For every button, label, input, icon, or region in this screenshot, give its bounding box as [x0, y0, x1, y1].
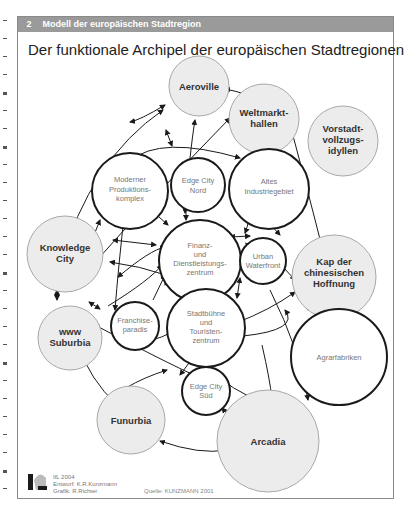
label-arcadia: Arcadia: [251, 436, 287, 447]
archipelago-diagram: Aeroville Weltmarkt-hallen Vorstadt-voll…: [0, 0, 408, 519]
label-funurbia: Funurbia: [111, 415, 152, 426]
label-aeroville: Aeroville: [179, 81, 219, 92]
credits: IfL 2004 Entwurf: K.R.Kunzmann Grafik: R…: [53, 474, 117, 495]
credits-line-1: IfL 2004: [53, 474, 117, 481]
credits-line-3: Grafik: R.Richter: [53, 488, 117, 495]
label-agrarfabriken: Agrarfabriken: [316, 353, 361, 362]
ifl-logo: [28, 474, 47, 490]
label-stadtbuehne-touristenzentrum: StadtbühneundTouristen-zentrum: [187, 309, 225, 345]
credits-line-2: Entwurf: K.R.Kunzmann: [53, 481, 117, 488]
label-vorstadtvollzugsidyllen: Vorstadt-vollzugs-idyllen: [322, 123, 363, 156]
source-note: Quelle: KUNZMANN 2001: [144, 488, 214, 494]
